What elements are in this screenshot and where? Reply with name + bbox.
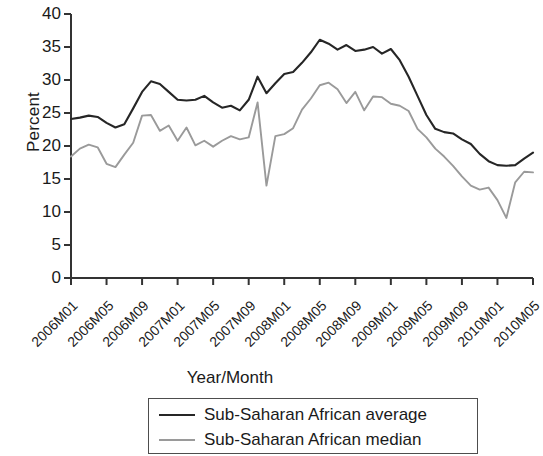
series-line-median: [71, 83, 533, 218]
y-tick-label: 20: [27, 136, 61, 156]
legend-swatch-average: [159, 414, 195, 416]
chart-legend: Sub-Saharan African average Sub-Saharan …: [148, 398, 478, 454]
x-axis-label: Year/Month: [0, 368, 460, 388]
axes: [64, 14, 533, 285]
y-tick-label: 15: [27, 169, 61, 189]
legend-item-average: Sub-Saharan African average: [159, 402, 477, 427]
x-axis-ticks: [71, 278, 533, 285]
legend-item-median: Sub-Saharan African median: [159, 427, 477, 452]
series-line-average: [71, 40, 533, 166]
y-axis-ticks: [64, 14, 71, 278]
data-series-group: [71, 40, 533, 218]
y-tick-label: 5: [27, 235, 61, 255]
y-tick-label: 0: [27, 268, 61, 288]
chart-figure: Percent Year/Month 0510152025303540 2006…: [0, 0, 543, 456]
legend-swatch-median: [159, 439, 195, 441]
y-tick-label: 10: [27, 202, 61, 222]
y-tick-label: 30: [27, 70, 61, 90]
legend-label-average: Sub-Saharan African average: [204, 406, 427, 423]
y-tick-label: 40: [27, 4, 61, 24]
y-tick-label: 25: [27, 103, 61, 123]
y-tick-label: 35: [27, 37, 61, 57]
legend-label-median: Sub-Saharan African median: [204, 431, 421, 448]
